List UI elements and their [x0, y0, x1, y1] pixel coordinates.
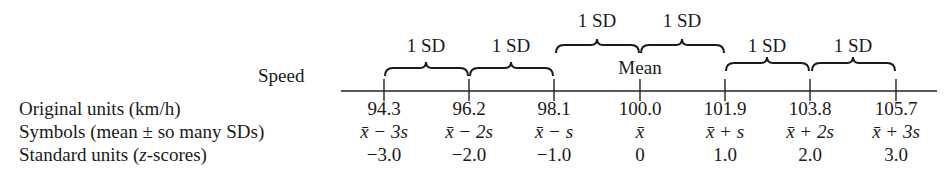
original-value: 103.8	[789, 99, 832, 119]
brace-2	[470, 62, 553, 76]
z-score-value: −1.0	[537, 145, 571, 165]
label-text: -scores)	[147, 144, 207, 165]
sd-label: 1 SD	[407, 36, 446, 56]
brace-5	[726, 57, 809, 71]
z-score-value: 2.0	[798, 145, 822, 165]
row-label-symbols: Symbols (mean ± so many SDs)	[19, 122, 264, 142]
row-label-standard-units: Standard units (z-scores)	[19, 145, 207, 165]
symbol-value: x̄ + s	[706, 122, 744, 142]
row-label-original-units: Original units (km/h)	[19, 99, 180, 119]
symbol-value: x̄ − 3s	[360, 122, 408, 142]
brace-3	[556, 39, 639, 53]
symbol-value: x̄ − 2s	[445, 122, 493, 142]
original-value: 101.9	[704, 99, 747, 119]
z-score-value: 1.0	[713, 145, 737, 165]
symbol-value: x̄ + 3s	[872, 122, 920, 142]
brace-1	[385, 62, 468, 76]
sd-label: 1 SD	[834, 36, 873, 56]
sd-label: 1 SD	[663, 11, 702, 31]
label-text: Standard units (	[19, 144, 139, 165]
z-score-value: −2.0	[452, 145, 486, 165]
symbol-value: x̄	[636, 122, 644, 142]
original-value: 100.0	[619, 99, 662, 119]
sd-label: 1 SD	[492, 36, 531, 56]
mean-label: Mean	[618, 58, 661, 78]
brace-6	[812, 57, 895, 71]
original-value: 96.2	[452, 99, 485, 119]
original-value: 105.7	[875, 99, 918, 119]
brace-4	[641, 39, 724, 53]
z-score-value: 0	[635, 145, 645, 165]
sd-label: 1 SD	[748, 36, 787, 56]
z-score-value: −3.0	[367, 145, 401, 165]
symbol-value: x̄ + 2s	[786, 122, 834, 142]
symbol-value: x̄ − s	[535, 122, 573, 142]
original-value: 94.3	[367, 99, 400, 119]
original-value: 98.1	[537, 99, 570, 119]
axis-label-speed: Speed	[258, 66, 304, 86]
sd-label: 1 SD	[578, 11, 617, 31]
z-score-value: 3.0	[884, 145, 908, 165]
label-text-italic: z	[139, 144, 146, 165]
